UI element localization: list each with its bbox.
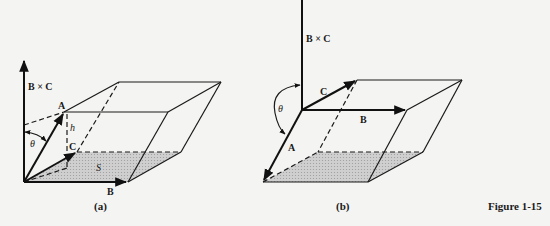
figure-canvas: B × C A h C θ S B (a) B × C C (0, 0, 550, 226)
area-label: S (96, 162, 101, 173)
vector-c-arrow (302, 81, 355, 110)
vector-a-label: A (288, 142, 296, 153)
panel-b: B × C C B A θ (b) (263, 0, 462, 213)
vector-b-label: B (107, 186, 114, 197)
panel-b-caption: (b) (336, 200, 350, 213)
edge (77, 82, 119, 152)
panel-a: B × C A h C θ S B (a) (24, 61, 221, 213)
figure-label: Figure 1-15 (488, 200, 542, 212)
theta-arc-icon (25, 132, 46, 141)
edge (181, 82, 221, 152)
angle-label: θ (30, 138, 35, 149)
axis-label: B × C (28, 81, 53, 92)
axis-label: B × C (306, 33, 331, 44)
angle-label: θ (278, 103, 283, 114)
vector-b-label: B (360, 114, 367, 125)
vector-c-label: C (320, 86, 327, 97)
vector-c-label: C (69, 141, 76, 152)
panel-a-caption: (a) (94, 200, 107, 213)
vector-a-label: A (58, 100, 66, 111)
base-area-s (24, 152, 181, 182)
base-area (263, 152, 423, 182)
edge (128, 112, 168, 182)
height-label: h (70, 122, 75, 133)
edge (64, 82, 119, 112)
